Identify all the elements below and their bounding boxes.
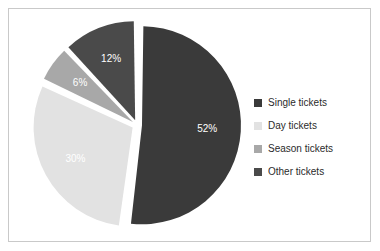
- pie-slice-group: [34, 21, 241, 225]
- legend-label-single-tickets: Single tickets: [268, 98, 327, 108]
- legend-label-other-tickets: Other tickets: [268, 167, 324, 177]
- chart-legend: Single tickets Day tickets Season ticket…: [254, 93, 370, 185]
- legend-label-season-tickets: Season tickets: [268, 144, 333, 154]
- pie-chart-plot-area: 52%30%6%12%: [9, 9, 257, 241]
- chart-frame: 52%30%6%12% Single tickets Day tickets S…: [8, 8, 371, 242]
- legend-swatch-icon-season-tickets: [254, 145, 262, 153]
- legend-label-day-tickets: Day tickets: [268, 121, 317, 131]
- pie-slice[interactable]: [131, 26, 241, 224]
- legend-item-single-tickets[interactable]: Single tickets: [254, 93, 370, 112]
- legend-item-season-tickets[interactable]: Season tickets: [254, 139, 370, 158]
- legend-swatch-icon-single-tickets: [254, 99, 262, 107]
- pie-chart-svg: 52%30%6%12%: [9, 9, 257, 241]
- legend-swatch-icon-other-tickets: [254, 168, 262, 176]
- legend-item-other-tickets[interactable]: Other tickets: [254, 162, 370, 181]
- legend-item-day-tickets[interactable]: Day tickets: [254, 116, 370, 135]
- legend-swatch-icon-day-tickets: [254, 122, 262, 130]
